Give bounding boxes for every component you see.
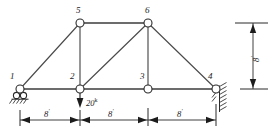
node-label-5: 5 xyxy=(76,6,81,15)
load-label-node-2: 20k xyxy=(86,97,98,107)
support-hatching-node-1 xyxy=(10,99,27,103)
node-label-1: 1 xyxy=(10,72,15,81)
support-node-1 xyxy=(10,92,29,103)
truss-drawing xyxy=(0,0,273,133)
node-label-3: 3 xyxy=(140,72,145,81)
truss-diagram-figure: 1 2 3 4 5 6 20k 8' 8' 8' 8' xyxy=(0,0,273,133)
dimension-label-span-1: 8' xyxy=(44,108,50,118)
member-6-4 xyxy=(148,23,216,89)
node-label-4: 4 xyxy=(208,72,213,81)
node-6 xyxy=(144,19,152,27)
load-arrow-node-2 xyxy=(77,93,84,108)
member-2-6 xyxy=(80,23,148,89)
truss-members xyxy=(20,23,216,89)
node-1 xyxy=(16,85,24,93)
dimension-label-height: 8' xyxy=(250,56,260,62)
node-2 xyxy=(76,85,84,93)
node-4 xyxy=(212,85,220,93)
dimension-label-span-2: 8' xyxy=(108,108,114,118)
dimension-label-span-3: 8' xyxy=(177,108,183,118)
node-5 xyxy=(76,19,84,27)
node-3 xyxy=(144,85,152,93)
truss-nodes xyxy=(16,19,220,93)
node-label-2: 2 xyxy=(70,72,75,81)
load-magnitude: 20 xyxy=(86,98,95,108)
node-label-6: 6 xyxy=(145,6,150,15)
load-unit: k xyxy=(95,97,98,103)
